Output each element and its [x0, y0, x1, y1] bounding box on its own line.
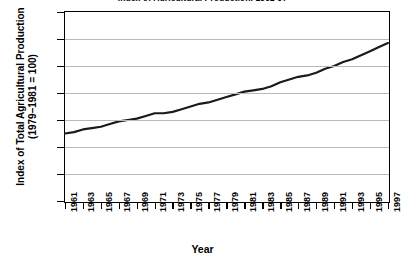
x-tick-label: 1967	[123, 192, 132, 212]
y-axis-label: Index of Total Agricultural Production (…	[15, 2, 38, 192]
x-tick-label: 1981	[249, 192, 258, 212]
x-tick-label: 1993	[357, 192, 366, 212]
x-tick-label: 1969	[141, 192, 150, 212]
x-tick-mark	[119, 203, 120, 209]
x-tick-label: 1997	[393, 192, 402, 212]
y-tick-mark	[57, 120, 64, 122]
y-tick-mark	[57, 93, 64, 95]
y-axis-label-line2: (1979–1981 = 100)	[26, 54, 37, 139]
chart-figure: Index of Agricultural Production, 1961-9…	[0, 0, 405, 258]
x-tick-mark	[244, 203, 245, 209]
x-tick-label: 1989	[321, 192, 330, 212]
gridline	[65, 174, 389, 175]
x-tick-label: 1985	[285, 192, 294, 212]
y-tick-mark	[57, 66, 64, 68]
x-tick-label: 1971	[159, 192, 168, 212]
gridline	[65, 93, 389, 94]
gridline	[65, 39, 389, 40]
x-tick-mark	[137, 203, 138, 209]
x-tick-mark	[316, 203, 317, 209]
x-tick-mark	[280, 203, 281, 209]
x-tick-mark	[65, 203, 66, 209]
y-tick-mark	[57, 174, 64, 176]
gridline	[65, 120, 389, 121]
gridline	[65, 147, 389, 148]
x-tick-label: 1991	[339, 192, 348, 212]
x-tick-mark	[101, 203, 102, 209]
x-tick-label: 1979	[231, 192, 240, 212]
x-tick-label: 1965	[105, 192, 114, 212]
x-tick-mark	[226, 203, 227, 209]
y-tick-mark	[57, 39, 64, 41]
x-tick-label: 1977	[213, 192, 222, 212]
y-tick-mark	[57, 201, 64, 203]
x-tick-mark	[388, 203, 389, 209]
chart-title: Index of Agricultural Production, 1961-9…	[0, 0, 405, 1]
x-tick-mark	[370, 203, 371, 209]
x-tick-mark	[352, 203, 353, 209]
plot-area	[64, 11, 390, 203]
y-axis-label-line1: Index of Total Agricultural Production	[15, 7, 26, 185]
x-tick-mark	[172, 203, 173, 209]
x-tick-label: 1975	[195, 192, 204, 212]
x-tick-mark	[262, 203, 263, 209]
x-tick-mark	[334, 203, 335, 209]
gridline	[65, 66, 389, 67]
x-axis-label: Year	[0, 243, 405, 255]
x-tick-mark	[83, 203, 84, 209]
x-tick-label: 1961	[70, 192, 79, 212]
x-tick-label: 1987	[303, 192, 312, 212]
x-tick-label: 1983	[267, 192, 276, 212]
y-tick-mark	[57, 12, 64, 14]
x-tick-mark	[298, 203, 299, 209]
x-tick-mark	[190, 203, 191, 209]
x-tick-label: 1963	[87, 192, 96, 212]
x-tick-mark	[208, 203, 209, 209]
data-series-line	[65, 12, 388, 201]
x-tick-label: 1973	[177, 192, 186, 212]
x-tick-mark	[155, 203, 156, 209]
y-tick-mark	[57, 147, 64, 149]
x-tick-label: 1995	[375, 192, 384, 212]
